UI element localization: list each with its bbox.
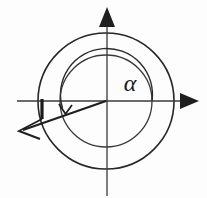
- unit-circle-diagram: α: [0, 0, 207, 198]
- figure-canvas: α: [0, 0, 207, 198]
- alpha-label: α: [124, 70, 137, 96]
